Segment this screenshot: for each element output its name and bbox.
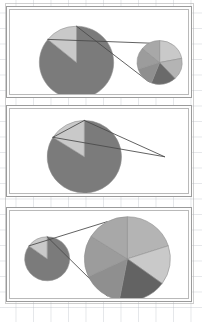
- pie-of-pie-figure: [0, 0, 202, 322]
- figure-paper: [6, 4, 192, 302]
- chart-panel-1-inner-border: [9, 9, 189, 95]
- detail-pie: [84, 217, 170, 298]
- chart-panel-2: [6, 105, 192, 197]
- main-pie: [47, 120, 121, 193]
- main-pie: [25, 237, 70, 281]
- chart-panel-3-inner-border: [9, 210, 189, 299]
- chart-panel-2-inner-border: [9, 108, 189, 194]
- main-pie: [39, 26, 113, 94]
- chart-panel-3: [6, 207, 192, 302]
- detail-pie: [137, 41, 182, 85]
- chart-panel-1-canvas: [10, 10, 188, 94]
- chart-panel-3-canvas: [10, 211, 188, 298]
- chart-panel-2-canvas: [10, 109, 188, 193]
- chart-panel-1: [6, 6, 192, 98]
